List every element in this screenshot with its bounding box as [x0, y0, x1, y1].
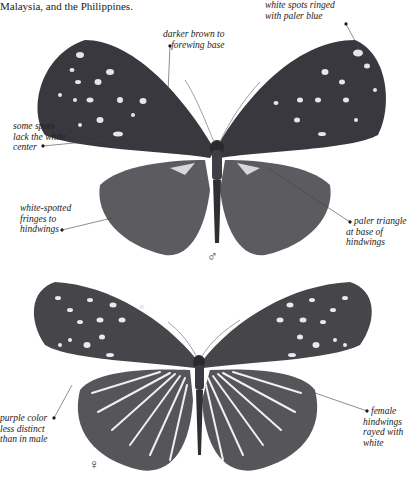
annotation-paler-triangle: paler triangle at base of hindwings — [354, 216, 407, 248]
annotation-purple-color: purple color less distinct than in male — [0, 413, 48, 445]
annotation-line: white-spotted — [20, 203, 71, 214]
annotation-line: lack the white — [13, 132, 66, 143]
annotation-lack-center: some spots lack the white center — [13, 121, 66, 153]
male-butterfly — [38, 40, 386, 255]
annotation-spots-ringed: white spots ringed with paler blue — [265, 0, 335, 21]
annotation-line: white spots ringed — [265, 0, 335, 11]
annotation-line: female — [371, 406, 403, 417]
annotation-line: some spots — [13, 121, 66, 132]
annotation-line: forewing base — [163, 40, 224, 51]
annotation-line: fringes to — [20, 214, 71, 225]
annotation-rayed: female hindwings rayed with white — [371, 406, 403, 448]
annotation-line: hindwings — [346, 237, 407, 248]
annotation-line: purple color — [0, 413, 48, 424]
annotation-line: white — [363, 438, 403, 449]
annotation-line: hindwings — [363, 417, 403, 428]
annotation-line: paler triangle — [354, 216, 407, 227]
annotation-line: less distinct — [0, 424, 48, 435]
annotation-line: darker brown to — [163, 29, 224, 40]
male-symbol: ♂ — [207, 250, 218, 264]
annotation-line: at base of — [346, 227, 407, 238]
female-butterfly — [34, 282, 372, 471]
annotation-line: than in male — [0, 434, 48, 445]
annotation-fringes: white-spotted fringes to hindwings — [20, 203, 71, 235]
annotation-line: hindwings — [20, 224, 71, 235]
female-symbol: ♀ — [89, 458, 100, 472]
annotation-line: rayed with — [363, 427, 403, 438]
annotation-line: with paler blue — [265, 11, 335, 22]
annotation-line: center — [13, 142, 66, 153]
annotation-darker-base: darker brown to forewing base — [163, 29, 224, 50]
